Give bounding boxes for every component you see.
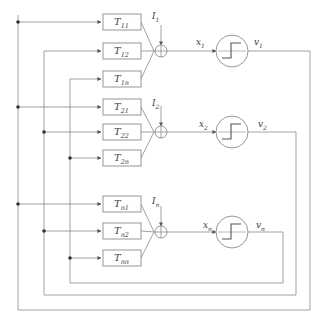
weight-label-n2-subscript: n2	[121, 231, 129, 239]
external-input-label-1-subscript: 1	[156, 16, 160, 23]
sum-2	[155, 126, 167, 138]
neuron-layer	[216, 35, 248, 248]
output-label-2-subscript: 2	[263, 124, 267, 131]
neuron-1	[216, 35, 248, 67]
weight-out-1n	[141, 51, 154, 79]
weight-label-22: T22	[114, 127, 129, 140]
diagram-canvas	[0, 0, 326, 325]
weight-out-nn	[141, 232, 154, 258]
weight-label-12: T12	[114, 46, 129, 59]
weight-label-21-base: T	[114, 101, 121, 112]
weight-out-n1	[141, 204, 154, 232]
output-label-1: v1	[254, 38, 263, 49]
weight-label-1n-subscript: 1n	[121, 79, 129, 87]
feedback-bus-1-tap-1	[16, 20, 20, 24]
weight-label-n1: Tn1	[114, 199, 129, 212]
weight-label-11: T11	[114, 17, 129, 30]
weight-out-11	[141, 22, 154, 51]
weight-label-11-base: T	[114, 16, 121, 27]
feedback-bus-1-tap-3	[16, 202, 20, 206]
neuron-3	[216, 216, 248, 248]
weight-label-21: T21	[114, 102, 129, 115]
weight-label-11-subscript: 11	[121, 22, 129, 30]
feedback-bus-3-tap-2	[68, 156, 72, 160]
hopfield-network-diagram: T11T12T1nT21T22T2nTn1Tn2TnnI1I2Inx1x2xnv…	[0, 0, 326, 325]
weight-label-2n-subscript: 2n	[121, 158, 129, 166]
output-label-n: vn	[256, 221, 265, 232]
weight-label-2n-base: T	[114, 152, 121, 163]
weight-label-n1-base: T	[114, 198, 121, 209]
external-input-label-n-subscript: n	[156, 201, 160, 208]
state-label-n-subscript: n	[208, 225, 212, 232]
weight-label-12-subscript: 12	[121, 51, 129, 59]
wire-layer	[18, 15, 310, 310]
weight-label-12-base: T	[114, 45, 121, 56]
feedback-bus-1-loop	[18, 15, 310, 310]
weight-label-22-subscript: 22	[121, 132, 129, 140]
output-label-2: v2	[258, 120, 267, 131]
sum-1	[155, 45, 167, 57]
state-label-1: x1	[196, 38, 205, 49]
weight-label-n1-subscript: n1	[121, 204, 129, 212]
state-label-2-subscript: 2	[204, 124, 208, 131]
weight-label-2n: T2n	[114, 153, 129, 166]
feedback-bus-2-tap-3	[42, 229, 46, 233]
feedback-bus-3-loop	[70, 79, 283, 283]
weight-label-n2-base: T	[114, 225, 121, 236]
weight-label-nn-base: T	[114, 252, 121, 263]
weight-label-22-base: T	[114, 126, 121, 137]
neuron-2	[216, 116, 248, 148]
weight-label-1n: T1n	[114, 74, 129, 87]
state-label-n: xn	[203, 221, 212, 232]
weight-label-nn-subscript: nn	[121, 258, 129, 266]
weight-label-1n-base: T	[114, 73, 121, 84]
weight-label-n2: Tn2	[114, 226, 129, 239]
feedback-bus-3-tap-3	[68, 256, 72, 260]
output-label-n-subscript: n	[261, 225, 265, 232]
external-input-label-1: I1	[152, 12, 159, 23]
sum-3	[155, 226, 167, 238]
weight-out-n2	[141, 231, 155, 232]
weight-label-21-subscript: 21	[121, 107, 129, 115]
output-label-1-subscript: 1	[259, 42, 263, 49]
feedback-bus-2-tap-2	[42, 130, 46, 134]
external-input-label-2: I2	[152, 99, 159, 110]
weight-out-21	[141, 107, 154, 132]
feedback-bus-1-tap-2	[16, 105, 20, 109]
state-label-2: x2	[199, 120, 208, 131]
weight-label-nn: Tnn	[114, 253, 129, 266]
state-label-1-subscript: 1	[201, 42, 205, 49]
external-input-label-n: In	[152, 197, 159, 208]
weight-out-2n	[141, 132, 154, 158]
external-input-label-2-subscript: 2	[156, 103, 160, 110]
